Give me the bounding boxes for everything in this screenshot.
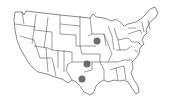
us-map-svg <box>0 0 170 101</box>
marker-texas <box>79 76 86 83</box>
marker-oklahoma <box>84 61 91 68</box>
marker-iowa <box>94 38 101 45</box>
us-map <box>0 0 170 101</box>
